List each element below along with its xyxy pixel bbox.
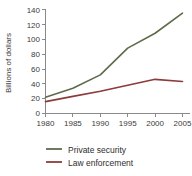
line-chart-canvas: Billions of dollars 140 120 100 80 60 40… — [0, 0, 192, 176]
x-tick-label: 1995 — [119, 119, 137, 128]
y-tick-label: 120 — [27, 21, 41, 30]
y-tick-label: 100 — [27, 35, 41, 44]
x-tick-label: 2000 — [146, 119, 164, 128]
x-tick-label: 1985 — [64, 119, 82, 128]
x-tick-label: 1990 — [91, 119, 109, 128]
x-axis-ticks — [46, 114, 183, 118]
y-tick-label: 40 — [31, 80, 40, 89]
x-tick-label: 1980 — [37, 119, 55, 128]
y-tick-label: 60 — [31, 65, 40, 74]
y-tick-label: 20 — [31, 94, 40, 103]
y-axis-ticks — [42, 10, 46, 114]
y-tick-label: 80 — [31, 50, 40, 59]
legend-label-law-enforcement: Law enforcement — [68, 158, 134, 168]
y-axis-tick-labels: 140 120 100 80 60 40 20 0 — [27, 6, 41, 118]
series-line-private-security — [46, 13, 183, 97]
chart-legend: Private security Law enforcement — [46, 145, 134, 168]
legend-label-private-security: Private security — [68, 145, 127, 155]
x-axis-tick-labels: 1980 1985 1990 1995 2000 2005 — [37, 119, 192, 128]
chart-figure: Billions of dollars 140 120 100 80 60 40… — [0, 0, 192, 176]
y-tick-label: 140 — [27, 6, 41, 15]
x-tick-label: 2005 — [174, 119, 192, 128]
y-axis-title: Billions of dollars — [4, 33, 13, 93]
y-tick-label: 0 — [36, 109, 41, 118]
